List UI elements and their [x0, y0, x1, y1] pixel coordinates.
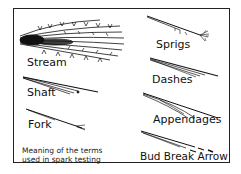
label-bud-break-arrow: Bud Break Arrow	[140, 151, 228, 162]
label-stream: Stream	[27, 57, 67, 68]
label-sprigs: Sprigs	[156, 39, 190, 50]
label-dashes: Dashes	[152, 74, 192, 85]
label-shaft: Shaft	[27, 87, 56, 98]
caption-line-1: Meaning of the terms	[22, 146, 102, 155]
bud-break-arrow-illustration	[141, 131, 213, 152]
label-appendages: Appendages	[153, 114, 221, 125]
caption-line-2: used in spark testing	[22, 155, 101, 164]
label-fork: Fork	[28, 119, 52, 130]
